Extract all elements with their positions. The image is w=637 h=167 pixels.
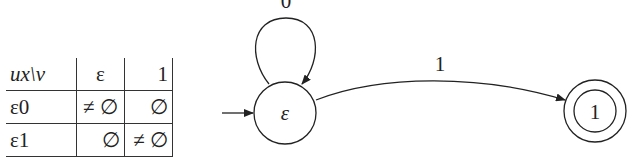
- transition-label-1: 1: [435, 52, 446, 76]
- self-loop-transition: [256, 18, 316, 84]
- state-epsilon-label: ε: [281, 101, 290, 125]
- automaton-diagram: 0 ε 1 1: [0, 0, 637, 167]
- state-1-label: 1: [590, 100, 601, 124]
- transition-eps-to-1: [316, 81, 565, 100]
- self-loop-label: 0: [281, 0, 292, 13]
